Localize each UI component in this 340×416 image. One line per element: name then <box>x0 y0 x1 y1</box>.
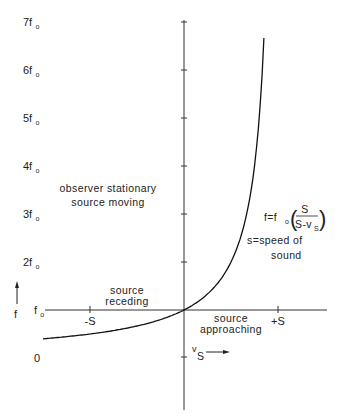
region-title-line1: observer stationary <box>60 182 157 194</box>
x-axis-arrow-icon <box>206 350 230 354</box>
svg-text:o: o <box>35 215 39 222</box>
y-tick-label: 4f <box>23 160 33 172</box>
y-tick-label: 6f <box>23 64 33 76</box>
svg-text:o: o <box>35 71 39 78</box>
svg-text:o: o <box>35 23 39 30</box>
f-axis-arrow-icon <box>15 281 19 304</box>
svg-text:S-v: S-v <box>295 218 312 230</box>
y-tick-label: 2f <box>23 256 33 268</box>
y-tick-label: 7f <box>23 16 33 28</box>
svg-text:): ) <box>319 206 326 231</box>
x-tick-label: +S <box>271 315 285 327</box>
y-axis-label: f <box>14 308 18 320</box>
receding-label-line2: receding <box>105 295 148 307</box>
approaching-label-line2: approaching <box>200 323 262 335</box>
y-tick-label: 5f <box>23 112 33 124</box>
svg-text:S: S <box>301 203 308 215</box>
svg-text:o: o <box>40 311 44 318</box>
svg-text:o: o <box>35 167 39 174</box>
x-tick-label: -S <box>85 315 96 327</box>
x-axis-label-sub: S <box>197 350 204 362</box>
speed-note-line2: sound <box>271 249 302 261</box>
y-tick-label: f <box>34 304 38 316</box>
region-title-line2: source moving <box>71 196 144 208</box>
speed-note-line1: s=speed of <box>247 234 303 246</box>
formula: f=f o ( S S-v S ) <box>264 203 326 232</box>
doppler-chart: 0fo2fo3fo4fo5fo6fo7fo -S+S f observer st… <box>0 0 340 416</box>
y-tick-label: 3f <box>23 208 33 220</box>
svg-text:o: o <box>35 119 39 126</box>
svg-text:f=f: f=f <box>264 211 277 223</box>
y-tick-label: 0 <box>34 352 40 364</box>
svg-text:o: o <box>35 263 39 270</box>
svg-text:o: o <box>285 218 289 225</box>
